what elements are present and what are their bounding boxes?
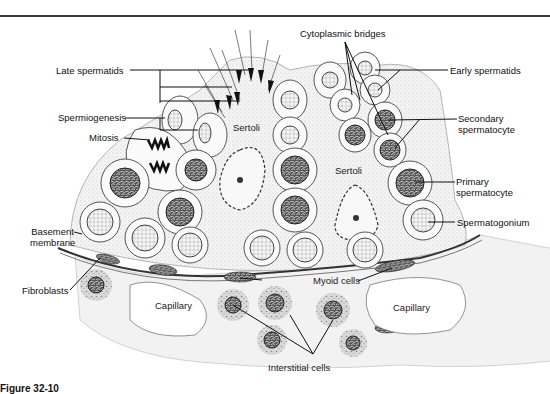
label-myoid-cells: Myoid cells xyxy=(313,275,360,286)
label-basement-membrane-line2: membrane xyxy=(30,237,74,248)
label-spermiogenesis: Spermiogenesis xyxy=(58,112,126,123)
label-mitosis: Mitosis xyxy=(89,132,119,143)
label-sertoli-right: Sertoli xyxy=(335,165,362,176)
label-fibroblasts: Fibroblasts xyxy=(22,285,68,296)
label-basement-membrane-line1: Basement xyxy=(30,226,74,237)
label-early-spermatids: Early spermatids xyxy=(450,65,521,76)
figure-caption: Figure 32-10 xyxy=(0,383,59,394)
label-capillary-right: Capillary xyxy=(393,302,430,313)
label-basement-membrane: Basement membrane xyxy=(30,226,74,248)
label-spermatogonium: Spermatogonium xyxy=(457,217,529,228)
label-late-spermatids: Late spermatids xyxy=(56,65,124,76)
label-secondary-spermatocyte: Secondary spermatocyte xyxy=(458,113,515,135)
label-secondary-line2: spermatocyte xyxy=(458,124,515,135)
label-interstitial-cells: Interstitial cells xyxy=(268,362,330,373)
label-secondary-line1: Secondary xyxy=(458,113,515,124)
label-primary-line1: Primary xyxy=(456,176,513,187)
label-cytoplasmic-bridges: Cytoplasmic bridges xyxy=(300,28,386,39)
label-capillary-left: Capillary xyxy=(155,300,192,311)
label-sertoli-left: Sertoli xyxy=(233,122,260,133)
label-primary-line2: spermatocyte xyxy=(456,187,513,198)
label-primary-spermatocyte: Primary spermatocyte xyxy=(456,176,513,198)
